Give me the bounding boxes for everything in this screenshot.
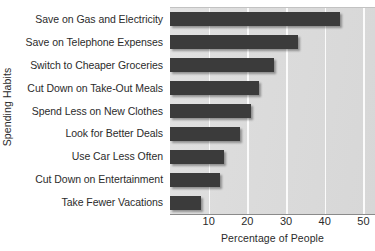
- bar: [170, 12, 340, 26]
- bar-slot: [170, 8, 340, 31]
- x-axis-tick-label: 30: [280, 215, 292, 227]
- bar-slot: [170, 54, 274, 77]
- x-axis-tick-labels: 1020304050: [170, 215, 375, 231]
- x-axis-tick-label: 50: [357, 215, 369, 227]
- bar-slot: [170, 100, 251, 123]
- category-label: Switch to Cheaper Groceries: [14, 54, 169, 77]
- bar: [170, 196, 201, 210]
- category-axis-labels: Save on Gas and ElectricitySave on Telep…: [14, 8, 169, 214]
- plot-area: [170, 8, 375, 214]
- bar-slot: [170, 31, 298, 54]
- category-label: Save on Gas and Electricity: [14, 8, 169, 31]
- bar: [170, 104, 251, 118]
- x-axis-tick-label: 40: [319, 215, 331, 227]
- x-axis-tick-label: 20: [241, 215, 253, 227]
- bar: [170, 150, 224, 164]
- bar-slot: [170, 77, 259, 100]
- category-label: Cut Down on Entertainment: [14, 168, 169, 191]
- bar-chart: Spending Habits Save on Gas and Electric…: [0, 0, 375, 251]
- category-label: Spend Less on New Clothes: [14, 100, 169, 123]
- category-label: Cut Down on Take-Out Meals: [14, 77, 169, 100]
- bar-slot: [170, 191, 201, 214]
- bar-slot: [170, 168, 220, 191]
- bar: [170, 81, 259, 95]
- bar-slot: [170, 145, 224, 168]
- bar: [170, 58, 274, 72]
- category-label: Take Fewer Vacations: [14, 191, 169, 214]
- x-axis-title: Percentage of People: [170, 232, 375, 244]
- category-label: Use Car Less Often: [14, 145, 169, 168]
- bars-container: [170, 8, 375, 214]
- y-axis-title: Spending Habits: [0, 0, 14, 214]
- category-label: Save on Telephone Expenses: [14, 31, 169, 54]
- bar: [170, 127, 240, 141]
- category-label: Look for Better Deals: [14, 122, 169, 145]
- bar-slot: [170, 122, 240, 145]
- bar: [170, 173, 220, 187]
- x-axis-tick-label: 10: [203, 215, 215, 227]
- bar: [170, 35, 298, 49]
- y-axis-title-text: Spending Habits: [1, 68, 13, 147]
